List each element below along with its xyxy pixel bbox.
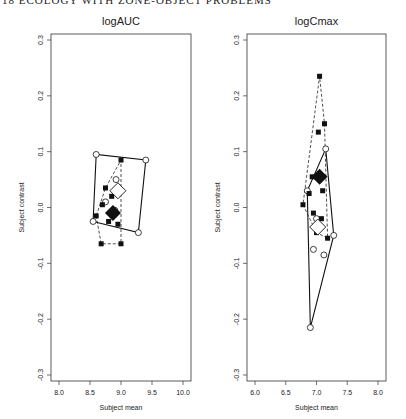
filled-square-point bbox=[307, 191, 312, 196]
filled-square-point bbox=[119, 158, 124, 163]
plot-frame bbox=[247, 34, 386, 381]
x-tick-label: 10.0 bbox=[176, 389, 190, 396]
y-axis-label: Subject contrast bbox=[214, 182, 222, 232]
x-tick-label: 6.5 bbox=[281, 389, 291, 396]
y-axis-label: Subject contrast bbox=[18, 182, 26, 232]
filled-square-point bbox=[99, 241, 104, 246]
y-tick-label: 0.2 bbox=[37, 91, 44, 101]
open-circle-point bbox=[113, 177, 119, 183]
chart-title: logCmax bbox=[295, 15, 339, 27]
open-circle-point bbox=[321, 252, 327, 258]
filled-diamond-mean bbox=[312, 169, 328, 185]
filled-square-point bbox=[320, 188, 325, 193]
filled-square-point bbox=[115, 222, 120, 227]
x-tick-label: 8.5 bbox=[85, 389, 95, 396]
open-circle-point bbox=[143, 157, 149, 163]
open-circle-point bbox=[307, 325, 313, 331]
y-tick-label: 0.1 bbox=[37, 147, 44, 157]
y-tick-label: 0.0 bbox=[233, 203, 240, 213]
filled-square-point bbox=[311, 211, 316, 216]
y-tick-label: 0.0 bbox=[37, 203, 44, 213]
filled-square-point bbox=[316, 130, 321, 135]
chart-canvas: logAUC8.08.59.09.510.0Subject mean-0.3-0… bbox=[0, 0, 406, 419]
filled-square-point bbox=[325, 236, 330, 241]
y-tick-label: -0.2 bbox=[233, 313, 240, 325]
open-circle-point bbox=[90, 218, 96, 224]
filled-square-point bbox=[317, 74, 322, 79]
filled-square-point bbox=[300, 202, 305, 207]
open-circle-point bbox=[310, 246, 316, 252]
y-tick-label: 0.3 bbox=[37, 35, 44, 45]
y-tick-label: -0.1 bbox=[37, 257, 44, 269]
x-tick-label: 7.0 bbox=[312, 389, 322, 396]
y-tick-label: 0.2 bbox=[233, 91, 240, 101]
open-circle-point bbox=[93, 151, 99, 157]
filled-square-point bbox=[94, 213, 99, 218]
x-tick-label: 9.0 bbox=[116, 389, 126, 396]
filled-diamond-mean bbox=[105, 205, 121, 221]
y-tick-label: 0.1 bbox=[233, 147, 240, 157]
open-circle-point bbox=[323, 146, 329, 152]
filled-square-point bbox=[103, 185, 108, 190]
filled-square-point bbox=[100, 202, 105, 207]
x-tick-label: 8.0 bbox=[54, 389, 64, 396]
y-tick-label: -0.2 bbox=[37, 313, 44, 325]
x-tick-label: 6.0 bbox=[250, 389, 260, 396]
open-diamond-mean bbox=[310, 219, 326, 235]
x-tick-label: 7.5 bbox=[342, 389, 352, 396]
y-tick-label: -0.3 bbox=[37, 369, 44, 381]
y-tick-label: 0.3 bbox=[233, 35, 240, 45]
x-tick-label: 8.0 bbox=[373, 389, 383, 396]
plot-frame bbox=[51, 34, 191, 381]
x-axis-label: Subject mean bbox=[100, 404, 143, 412]
open-circle-point bbox=[331, 232, 337, 238]
panel-logAUC: logAUC8.08.59.09.510.0Subject mean-0.3-0… bbox=[18, 15, 191, 412]
filled-square-point bbox=[119, 241, 124, 246]
x-tick-label: 9.5 bbox=[147, 389, 157, 396]
x-axis-label: Subject mean bbox=[295, 404, 338, 412]
chart-title: logAUC bbox=[102, 15, 140, 27]
y-tick-label: -0.1 bbox=[233, 257, 240, 269]
filled-square-point bbox=[106, 219, 111, 224]
filled-square-point bbox=[322, 121, 327, 126]
open-circle-point bbox=[135, 230, 141, 236]
panel-logCmax: logCmax6.06.57.07.58.0Subject mean-0.3-0… bbox=[214, 15, 386, 412]
y-tick-label: -0.3 bbox=[233, 369, 240, 381]
